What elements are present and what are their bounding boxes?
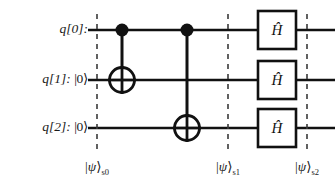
state-label-s0: |ψ⟩s0: [85, 160, 109, 176]
cnot-gate-q0-q2[interactable]: [173, 24, 201, 143]
hadamard-label-q2: Ĥ: [272, 121, 283, 136]
hadamard-letter-q2: Ĥ: [272, 120, 283, 136]
hadamard-letter-q0: Ĥ: [272, 22, 283, 38]
qubit-label-q2: q[2]: |0⟩: [42, 120, 88, 134]
state-subscript-s0: s0: [101, 167, 109, 177]
state-subscript-s2: s2: [311, 167, 319, 177]
state-subscript-s1: s1: [232, 167, 240, 177]
hadamard-label-q1: Ĥ: [272, 73, 283, 88]
cnot-gate-q0-q1[interactable]: [108, 24, 136, 95]
state-psi-s1: ψ: [219, 159, 227, 174]
hadamard-label-q0: Ĥ: [272, 23, 283, 38]
qubit-label-q0: q[0]:: [59, 22, 88, 36]
control-dot-q0-second: [181, 24, 194, 37]
hadamard-letter-q1: Ĥ: [272, 72, 283, 88]
state-label-s1: |ψ⟩s1: [216, 160, 240, 176]
state-psi-s2: ψ: [298, 159, 306, 174]
qubit-name-q0: q[0]:: [59, 21, 88, 36]
quantum-circuit-diagram: q[0]: q[1]: |0⟩ q[2]: |0⟩ Ĥ Ĥ Ĥ |ψ⟩s0…: [0, 0, 335, 186]
state-label-s2: |ψ⟩s2: [295, 160, 319, 176]
state-psi-s0: ψ: [88, 159, 96, 174]
control-dot-q0-first: [116, 24, 129, 37]
qubit-ket-q1: |0⟩: [74, 71, 88, 86]
qubit-name-q2: q[2]:: [42, 119, 71, 134]
circuit-canvas: [0, 0, 335, 186]
qubit-name-q1: q[1]:: [42, 71, 71, 86]
qubit-ket-q2: |0⟩: [74, 119, 88, 134]
qubit-label-q1: q[1]: |0⟩: [42, 72, 88, 86]
